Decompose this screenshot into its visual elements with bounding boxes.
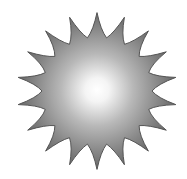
sun-shape xyxy=(18,13,176,170)
sun-icon xyxy=(0,0,187,179)
sun-illustration xyxy=(0,0,187,179)
